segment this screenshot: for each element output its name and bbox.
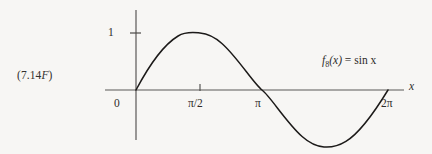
sine-plot <box>0 0 432 154</box>
x-tick-label-pi-half: π/2 <box>188 97 203 109</box>
function-label: f8(x) = sin x <box>322 54 376 69</box>
y-tick-label-1: 1 <box>108 26 114 38</box>
x-axis-label: x <box>409 80 414 92</box>
function-label-equals: = <box>345 54 352 66</box>
function-label-argument: (x) <box>329 54 342 66</box>
figure-root: (7.14F) 1 0 π/2 π 2π f8(x) = sin x x <box>0 0 432 154</box>
function-label-expression: sin x <box>354 54 376 66</box>
x-tick-label-pi: π <box>255 97 261 109</box>
x-tick-label-two-pi: 2π <box>381 97 393 109</box>
x-tick-label-0: 0 <box>114 97 120 109</box>
